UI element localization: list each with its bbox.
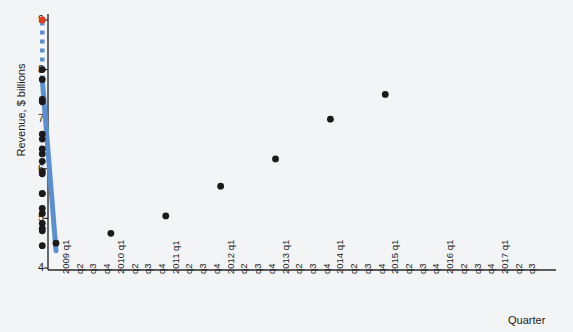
data-point (217, 183, 224, 190)
data-point (107, 230, 114, 237)
data-point (39, 190, 46, 197)
data-point (382, 91, 389, 98)
forecast-data-point (39, 17, 46, 24)
data-point (53, 240, 60, 247)
data-point (162, 213, 169, 220)
data-point (39, 225, 46, 232)
data-point (39, 242, 46, 249)
data-point (39, 98, 46, 105)
data-point (39, 66, 46, 73)
data-points (39, 66, 389, 249)
data-point (39, 168, 46, 175)
data-point (39, 151, 46, 158)
data-point (272, 155, 279, 162)
data-point (39, 158, 46, 165)
scatter-plot-canvas (0, 0, 573, 332)
data-point (327, 116, 334, 123)
data-point (39, 205, 46, 212)
forecast-point (39, 17, 46, 24)
data-point (39, 76, 46, 83)
axis-lines (48, 14, 556, 270)
data-point (39, 136, 46, 143)
